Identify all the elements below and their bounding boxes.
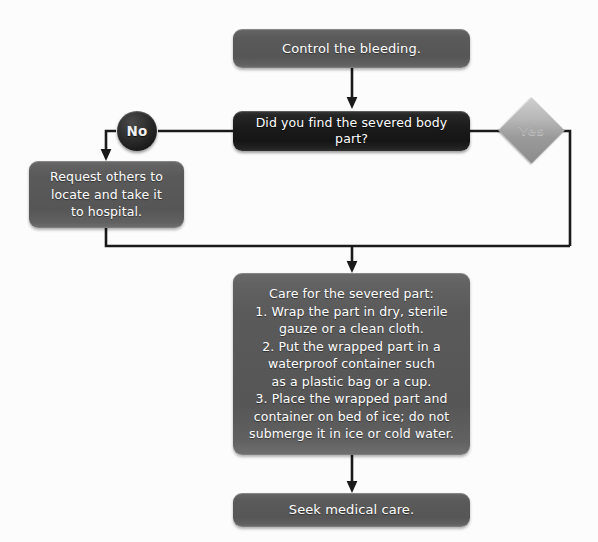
node-control-bleeding[interactable]: Control the bleeding. xyxy=(233,29,470,68)
branch-label-no[interactable]: No xyxy=(117,111,157,151)
branch-label-yes-text: Yes xyxy=(519,123,544,138)
arrowhead-care xyxy=(347,261,358,273)
connector-request-to-merge xyxy=(106,228,570,246)
flowchart-canvas: Control the bleeding. Did you find the s… xyxy=(0,0,598,542)
node-care-severed-part-label: Care for the severed part: 1. Wrap the p… xyxy=(239,285,464,443)
node-seek-medical-care-label: Seek medical care. xyxy=(279,502,424,518)
arrowhead-decision xyxy=(347,97,358,109)
branch-label-yes[interactable]: Yes xyxy=(508,107,555,154)
node-seek-medical-care[interactable]: Seek medical care. xyxy=(233,493,470,527)
node-care-severed-part[interactable]: Care for the severed part: 1. Wrap the p… xyxy=(233,273,470,455)
node-request-others-label: Request others to locate and take it to … xyxy=(40,168,173,221)
connector-no-to-request xyxy=(106,131,116,156)
node-decision-found-part[interactable]: Did you find the severed body part? xyxy=(233,111,470,151)
arrowhead-end xyxy=(347,481,358,493)
arrowhead-request xyxy=(101,149,112,161)
node-decision-found-part-label: Did you find the severed body part? xyxy=(233,115,470,147)
node-control-bleeding-label: Control the bleeding. xyxy=(272,41,431,57)
node-request-others[interactable]: Request others to locate and take it to … xyxy=(29,161,184,228)
flowchart-connectors xyxy=(0,0,598,542)
branch-label-no-text: No xyxy=(127,123,148,139)
